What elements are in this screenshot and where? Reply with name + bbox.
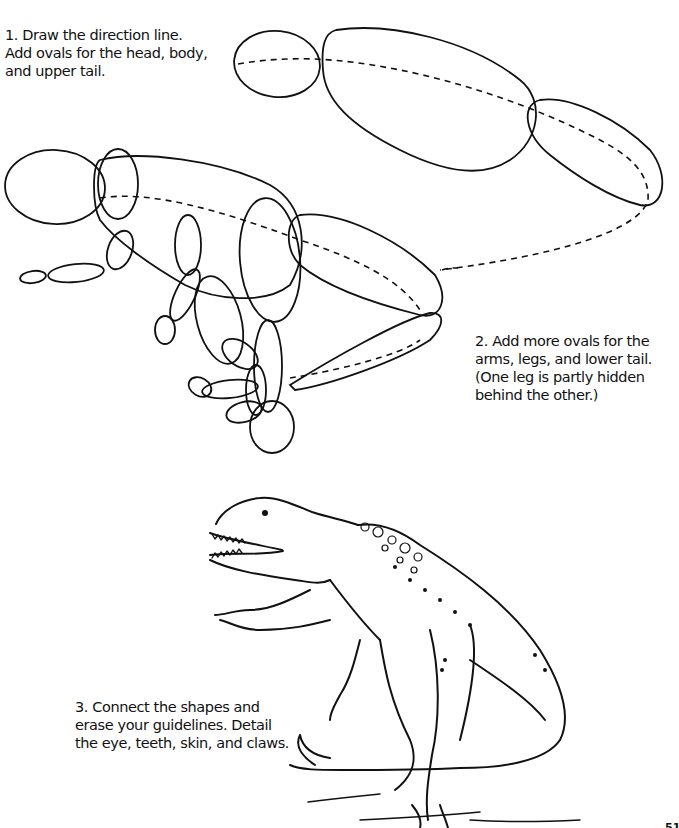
illustrations-canvas (0, 0, 679, 828)
page-number: 51 (665, 822, 679, 828)
step-3-illustration (210, 498, 580, 828)
skin-texture (361, 523, 547, 672)
step-2-illustration (3, 147, 458, 453)
